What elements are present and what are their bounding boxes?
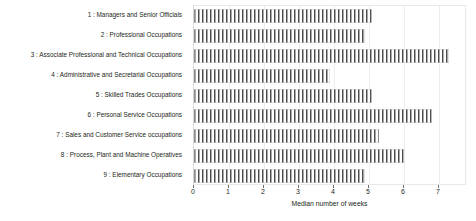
category-axis-labels: 1 : Managers and Senior Officials 2 : Pr… [0,5,186,185]
category-label: 2 : Professional Occupations [101,25,182,45]
x-tick-label: 3 [296,188,300,195]
category-label: 5 : Skilled Trades Occupations [96,85,182,105]
bar [194,149,404,163]
bar [194,109,432,123]
x-tick-label: 2 [261,188,265,195]
category-label: 9 : Elementary Occupations [103,165,182,185]
bar [194,89,372,103]
x-tick-label: 4 [331,188,335,195]
category-label: 1 : Managers and Senior Officials [88,5,182,25]
x-tick-label: 7 [436,188,440,195]
bar [194,129,379,143]
chart-container: 1 : Managers and Senior Officials 2 : Pr… [0,0,476,221]
bar [194,9,372,23]
x-tick-label: 0 [191,188,195,195]
bar [194,29,365,43]
category-label: 4 : Administrative and Secretarial Occup… [51,65,182,85]
category-label: 8 : Process, Plant and Machine Operative… [61,145,182,165]
bar-series [194,6,465,184]
x-axis-title: Median number of weeks [193,200,466,207]
category-label: 6 : Personal Service Occupations [88,105,183,125]
bar [194,49,449,63]
x-tick-label: 1 [226,188,230,195]
x-tick-label: 6 [401,188,405,195]
category-label: 7 : Sales and Customer Service occupatio… [56,125,182,145]
plot-area [193,5,466,185]
bar [194,169,365,183]
bar [194,69,330,83]
category-label: 3 : Associate Professional and Technical… [31,45,182,65]
x-tick-label: 5 [366,188,370,195]
x-axis: 0 1 2 3 4 5 6 7 [193,185,466,195]
